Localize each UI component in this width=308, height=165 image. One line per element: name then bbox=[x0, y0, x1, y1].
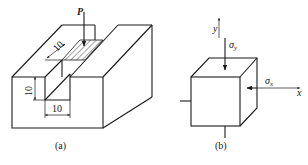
dimension-height bbox=[33, 77, 45, 100]
stress-x-label: σx bbox=[265, 75, 274, 88]
stress-y-label: σy bbox=[229, 39, 238, 52]
dim-height-label: 10 bbox=[23, 86, 34, 96]
hatched-load-area bbox=[62, 40, 103, 60]
caption-b: (b) bbox=[215, 140, 227, 152]
y-axis-label: y bbox=[212, 23, 218, 34]
diagram-canvas: P 10 10 10 (a) y x σy σx (b) bbox=[0, 0, 308, 165]
figure-a-block bbox=[12, 25, 152, 128]
load-label: P bbox=[77, 6, 84, 17]
x-axis-label: x bbox=[296, 87, 302, 98]
dim-bottom-label: 10 bbox=[52, 103, 62, 114]
caption-a: (a) bbox=[55, 140, 66, 152]
figure-b-cube bbox=[191, 58, 257, 126]
dim-top-label: 10 bbox=[51, 39, 66, 54]
